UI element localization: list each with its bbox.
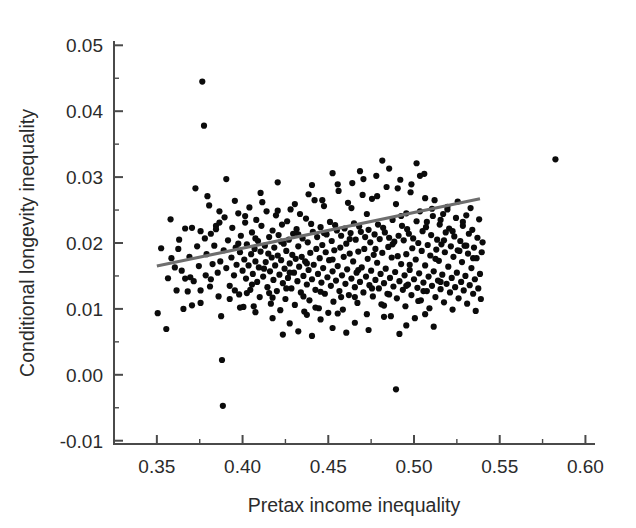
data-point — [455, 247, 461, 253]
data-point — [243, 275, 249, 281]
data-point — [372, 246, 378, 252]
data-point — [311, 262, 317, 268]
data-point — [280, 332, 286, 338]
data-point — [431, 324, 437, 330]
data-point — [158, 245, 164, 251]
data-point — [185, 288, 191, 294]
data-point — [362, 234, 368, 240]
data-point — [204, 193, 210, 199]
data-point — [407, 189, 413, 195]
data-point — [304, 260, 310, 266]
data-point — [352, 284, 358, 290]
data-point — [304, 281, 310, 287]
data-point — [448, 243, 454, 249]
data-point — [330, 299, 336, 305]
data-point — [387, 275, 393, 281]
data-point — [292, 201, 298, 207]
data-point — [308, 221, 314, 227]
data-point — [227, 283, 233, 289]
data-point — [352, 320, 358, 326]
data-point — [359, 192, 365, 198]
data-point — [165, 275, 171, 281]
data-point — [388, 313, 394, 319]
data-point — [317, 289, 323, 295]
data-point — [220, 403, 226, 409]
data-point — [369, 285, 375, 291]
data-point — [340, 306, 346, 312]
data-point — [423, 224, 429, 230]
data-point — [270, 277, 276, 283]
data-point — [287, 206, 293, 212]
data-point — [365, 327, 371, 333]
data-point — [295, 328, 301, 334]
data-point — [552, 156, 558, 162]
data-point — [257, 248, 263, 254]
y-tick-label: 0.05 — [66, 35, 103, 56]
data-point — [295, 243, 301, 249]
data-point — [175, 246, 181, 252]
data-point — [242, 213, 248, 219]
data-point — [458, 279, 464, 285]
data-point — [251, 303, 257, 309]
data-point — [431, 197, 437, 203]
data-point — [196, 263, 202, 269]
data-point — [309, 276, 315, 282]
data-point — [364, 311, 370, 317]
data-point — [238, 233, 244, 239]
data-point — [328, 283, 334, 289]
data-point — [437, 279, 443, 285]
data-point — [319, 242, 325, 248]
x-tick-label: 0.35 — [138, 456, 175, 477]
data-point — [207, 283, 213, 289]
data-point — [194, 243, 200, 249]
data-point — [245, 262, 251, 268]
data-point — [223, 176, 229, 182]
data-point — [454, 270, 460, 276]
data-point — [267, 268, 273, 274]
data-point — [396, 278, 402, 284]
data-point — [425, 274, 431, 280]
data-point — [333, 277, 339, 283]
data-point — [305, 239, 311, 245]
data-point — [182, 225, 188, 231]
data-point — [347, 236, 353, 242]
data-point — [372, 277, 378, 283]
data-point — [282, 296, 288, 302]
data-point — [348, 275, 354, 281]
y-tick-label: 0.01 — [66, 299, 103, 320]
data-point — [401, 272, 407, 278]
data-point — [297, 211, 303, 217]
data-point — [376, 285, 382, 291]
data-point — [281, 266, 287, 272]
data-point — [377, 236, 383, 242]
data-point — [379, 250, 385, 256]
data-point — [197, 287, 203, 293]
data-point — [173, 287, 179, 293]
data-point — [345, 200, 351, 206]
data-point — [440, 211, 446, 217]
data-point — [303, 216, 309, 222]
data-point — [293, 256, 299, 262]
data-point — [408, 181, 414, 187]
data-point — [313, 246, 319, 252]
data-point — [373, 173, 379, 179]
data-point — [432, 294, 438, 300]
data-point — [468, 265, 474, 271]
data-point — [347, 250, 353, 256]
data-point — [455, 295, 461, 301]
data-point — [401, 237, 407, 243]
data-point — [442, 249, 448, 255]
data-point — [229, 225, 235, 231]
data-point — [227, 296, 233, 302]
data-point — [432, 256, 438, 262]
data-point — [225, 237, 231, 243]
data-point — [449, 228, 455, 234]
data-point — [335, 310, 341, 316]
data-point — [461, 287, 467, 293]
data-point — [413, 218, 419, 224]
data-point — [349, 180, 355, 186]
data-point — [465, 250, 471, 256]
data-point — [182, 275, 188, 281]
data-point — [450, 254, 456, 260]
data-point — [272, 262, 278, 268]
